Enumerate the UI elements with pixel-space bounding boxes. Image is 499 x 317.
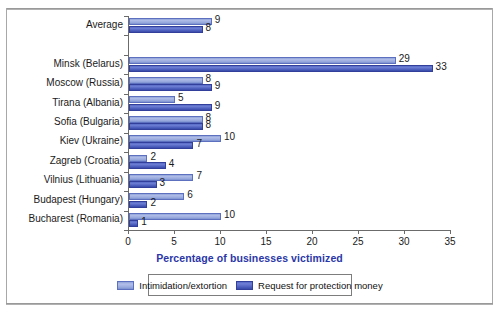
x-tick-25 xyxy=(358,230,359,234)
bar-value-label: 29 xyxy=(399,53,410,64)
bar-protection-money xyxy=(129,142,193,149)
bar-value-label: 33 xyxy=(436,61,447,72)
bar-intimidation-extortion xyxy=(129,77,203,84)
bar-value-label: 3 xyxy=(160,177,166,188)
category-label-bucharest-romania: Bucharest (Romania) xyxy=(0,213,123,224)
x-axis-title: Percentage of businesses victimized xyxy=(0,252,499,264)
category-label-kiev-ukraine: Kiev (Ukraine) xyxy=(0,135,123,146)
bar-value-label: 8 xyxy=(206,22,212,33)
bar-value-label: 7 xyxy=(196,138,202,149)
bar-protection-money xyxy=(129,104,212,111)
bar-intimidation-extortion xyxy=(129,155,147,162)
y-tick-11 xyxy=(124,230,128,231)
legend-label-intimidation-extortion: Intimidation/extortion xyxy=(139,280,227,291)
y-tick-7 xyxy=(124,152,128,153)
bar-protection-money xyxy=(129,220,138,227)
bar-value-label: 10 xyxy=(224,209,235,220)
x-tick-label-25: 25 xyxy=(352,236,363,247)
bar-intimidation-extortion xyxy=(129,116,203,123)
category-label-average: Average xyxy=(0,19,123,30)
category-label-vilnius-lithuania: Vilnius (Lithuania) xyxy=(0,174,123,185)
x-axis-line xyxy=(128,230,450,231)
x-tick-label-5: 5 xyxy=(171,236,177,247)
chart-figure: 982933895988107247362101 05101520253035 … xyxy=(0,0,499,317)
y-tick-3 xyxy=(124,74,128,75)
bar-protection-money xyxy=(129,162,166,169)
bar-value-label: 9 xyxy=(215,100,221,111)
bar-intimidation-extortion xyxy=(129,57,396,64)
bar-value-label: 9 xyxy=(215,80,221,91)
x-tick-15 xyxy=(266,230,267,234)
category-label-zagreb-croatia: Zagreb (Croatia) xyxy=(0,155,123,166)
y-tick-4 xyxy=(124,94,128,95)
bar-protection-money xyxy=(129,201,147,208)
bar-value-label: 2 xyxy=(150,151,156,162)
figure-top-border xyxy=(6,8,493,10)
bar-protection-money xyxy=(129,84,212,91)
bar-value-label: 2 xyxy=(150,197,156,208)
bar-intimidation-extortion xyxy=(129,193,184,200)
x-tick-30 xyxy=(404,230,405,234)
x-tick-35 xyxy=(450,230,451,234)
legend-item-intimidation-extortion: Intimidation/extortion xyxy=(117,280,227,291)
category-label-tirana-albania: Tirana (Albania) xyxy=(0,97,123,108)
category-label-budapest-hungary: Budapest (Hungary) xyxy=(0,194,123,205)
legend-swatch-dark-icon xyxy=(236,281,253,290)
bar-intimidation-extortion xyxy=(129,96,175,103)
bar-protection-money xyxy=(129,65,433,72)
x-tick-5 xyxy=(174,230,175,234)
category-label-sofia-bulgaria: Sofia (Bulgaria) xyxy=(0,116,123,127)
category-label-moscow-russia: Moscow (Russia) xyxy=(0,77,123,88)
x-tick-label-20: 20 xyxy=(306,236,317,247)
y-tick-10 xyxy=(124,211,128,212)
bar-value-label: 8 xyxy=(206,119,212,130)
bar-value-label: 9 xyxy=(215,14,221,25)
bar-value-label: 4 xyxy=(169,158,175,169)
x-tick-label-30: 30 xyxy=(398,236,409,247)
legend-item-request-for-protection-money: Request for protection money xyxy=(236,280,383,291)
x-tick-0 xyxy=(128,230,129,234)
bar-intimidation-extortion xyxy=(129,135,221,142)
legend-label-request-for-protection-money: Request for protection money xyxy=(258,280,383,291)
legend-swatch-light-icon xyxy=(117,281,134,290)
y-tick-8 xyxy=(124,172,128,173)
bar-protection-money xyxy=(129,181,157,188)
bar-protection-money xyxy=(129,123,203,130)
x-tick-20 xyxy=(312,230,313,234)
y-tick-5 xyxy=(124,113,128,114)
bar-value-label: 7 xyxy=(196,170,202,181)
chart-legend: Intimidation/extortion Request for prote… xyxy=(148,274,352,296)
x-tick-label-15: 15 xyxy=(260,236,271,247)
bar-value-label: 5 xyxy=(178,92,184,103)
x-tick-label-35: 35 xyxy=(444,236,455,247)
x-tick-label-10: 10 xyxy=(214,236,225,247)
x-tick-label-0: 0 xyxy=(125,236,131,247)
plot-area: 982933895988107247362101 05101520253035 xyxy=(128,16,450,230)
bar-value-label: 8 xyxy=(206,73,212,84)
figure-bottom-border xyxy=(6,303,493,305)
bar-intimidation-extortion xyxy=(129,18,212,25)
bar-value-label: 10 xyxy=(224,131,235,142)
y-tick-6 xyxy=(124,133,128,134)
y-tick-9 xyxy=(124,191,128,192)
y-tick-2 xyxy=(124,55,128,56)
y-tick-0 xyxy=(124,16,128,17)
y-tick-1 xyxy=(124,35,128,36)
bar-protection-money xyxy=(129,26,203,33)
category-label-minsk-belarus: Minsk (Belarus) xyxy=(0,58,123,69)
x-tick-10 xyxy=(220,230,221,234)
bar-value-label: 1 xyxy=(141,216,147,227)
bar-value-label: 6 xyxy=(187,189,193,200)
